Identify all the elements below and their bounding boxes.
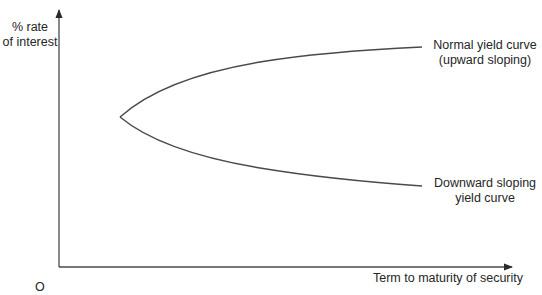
downward-curve-label-line1: Downward sloping [428, 176, 542, 191]
downward-curve-label-line2: yield curve [428, 191, 542, 206]
y-axis-label-line1: % rate [2, 20, 58, 35]
normal-curve-annotation: Normal yield curve (upward sloping) [428, 38, 542, 68]
y-axis-label: % rate of interest [2, 20, 58, 50]
normal-yield-curve [120, 47, 422, 117]
x-axis-label: Term to maturity of security [373, 271, 523, 286]
normal-curve-label-line2: (upward sloping) [428, 53, 542, 68]
downward-curve-annotation: Downward sloping yield curve [428, 176, 542, 206]
origin-label: O [35, 280, 45, 295]
downward-yield-curve [120, 117, 422, 186]
y-axis-label-line2: of interest [2, 35, 58, 50]
normal-curve-label-line1: Normal yield curve [428, 38, 542, 53]
